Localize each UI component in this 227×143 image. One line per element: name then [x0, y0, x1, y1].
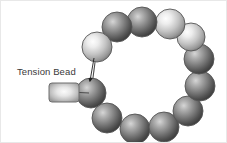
ring-bead[interactable]: [120, 114, 150, 143]
ring-bead[interactable]: [185, 71, 215, 101]
ring-bead[interactable]: [155, 9, 185, 39]
ring-bead[interactable]: [92, 103, 122, 133]
ring-bead[interactable]: [82, 32, 112, 62]
beaded-ring-diagram: Tension Bead: [1, 1, 227, 143]
bead-layer: [76, 7, 215, 143]
tension-bead-connector: [79, 93, 89, 94]
diagram-canvas: Tension Bead: [0, 0, 227, 143]
tension-bead-label: Tension Bead: [17, 66, 76, 77]
tension-bead-shape[interactable]: [49, 83, 79, 102]
